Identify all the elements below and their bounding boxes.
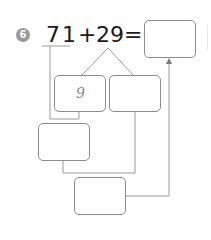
answer-box[interactable] bbox=[144, 20, 196, 58]
split-right-box[interactable] bbox=[109, 75, 161, 112]
arrow-up-icon bbox=[166, 58, 172, 64]
plus-operator: + bbox=[78, 24, 96, 46]
operand-ones-digit: 1 bbox=[62, 24, 76, 46]
split-left-value: 9 bbox=[76, 85, 85, 101]
operand-tens-digit: 7 bbox=[46, 24, 60, 46]
problem-number-badge: 6 bbox=[16, 28, 30, 42]
intermediate-sum-box[interactable] bbox=[38, 123, 90, 161]
right-operand: 29 bbox=[96, 24, 124, 46]
split-left-box[interactable]: 9 bbox=[54, 75, 106, 112]
final-sum-box[interactable] bbox=[74, 177, 126, 215]
page-edge-mark bbox=[207, 25, 208, 50]
equals-sign: = bbox=[124, 24, 142, 46]
